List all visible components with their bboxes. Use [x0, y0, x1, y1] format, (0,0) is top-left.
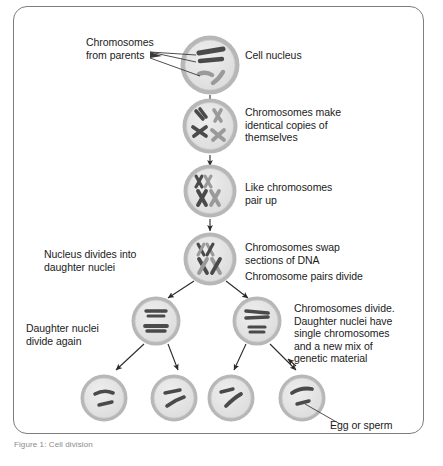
label-chromosomes-make-copies: Chromosomes make identical copies of the…: [245, 106, 375, 144]
label-nucleus-divides: Nucleus divides into daughter nuclei: [44, 248, 169, 273]
label-chromosome-pairs-divide: Chromosome pairs divide: [245, 270, 395, 283]
arrow-stage4-to-daughter-left: [168, 281, 194, 298]
label-chromosomes-swap-dna: Chromosomes swap sections of DNA: [245, 241, 375, 266]
arrow-daughter-right-to-gamete-4: [270, 344, 296, 370]
label-egg-or-sperm: Egg or sperm: [330, 419, 430, 432]
stage-5-daughter-nucleus-right: [233, 297, 282, 346]
stage-6-gamete-4: [279, 375, 326, 422]
stage-3-pairing: [184, 165, 237, 218]
stage-5-daughter-nucleus-left: [132, 297, 181, 346]
figure-caption: Figure 1: Cell division: [14, 440, 93, 449]
stage-2-replication: [183, 99, 238, 154]
arrow-daughter-right-to-gamete-3: [234, 344, 246, 370]
stage-1-parent-nucleus: [181, 36, 240, 95]
arrow-stage4-to-daughter-right: [226, 281, 248, 298]
label-cell-nucleus: Cell nucleus: [245, 49, 355, 62]
arrow-daughter-left-to-gamete-2: [168, 344, 178, 370]
stage-6-gamete-2: [151, 375, 198, 422]
label-like-chromosomes-pair-up: Like chromosomes pair up: [245, 181, 365, 206]
label-chromosomes-from-parents: Chromosomes from parents: [86, 36, 186, 61]
meiosis-diagram-figure: Chromosomes from parents Cell nucleus Ch…: [0, 0, 443, 466]
arrow-daughter-left-to-gamete-1: [116, 344, 144, 370]
label-chromosomes-divide-detail: Chromosomes divide. Daughter nuclei have…: [294, 302, 422, 365]
diagram-graphics: [0, 0, 443, 466]
stage-6-gamete-1: [81, 375, 128, 422]
stage-6-gamete-3: [208, 375, 255, 422]
stage-4-crossing-over: [184, 233, 237, 286]
label-daughter-nuclei-divide-again: Daughter nuclei divide again: [26, 322, 131, 347]
